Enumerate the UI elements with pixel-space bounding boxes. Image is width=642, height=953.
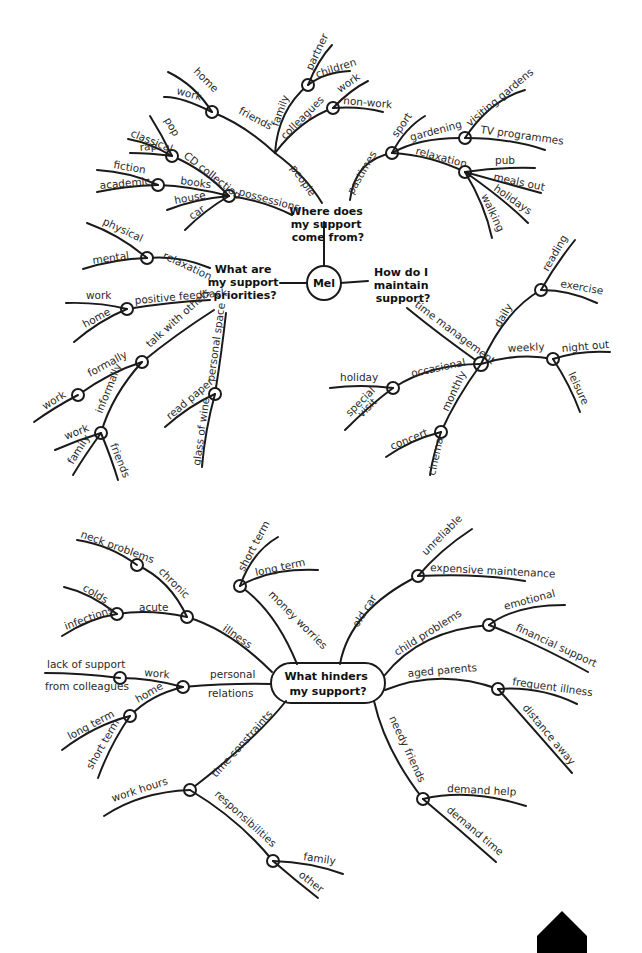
label-lack: lack of support xyxy=(47,658,125,670)
label-p-work: work xyxy=(144,666,171,680)
label-rap: rap xyxy=(139,139,158,153)
mind-map-canvas: Mel Where does my support come from? Wha… xyxy=(0,0,642,953)
branch-line xyxy=(340,281,368,283)
label-exercise: exercise xyxy=(560,277,605,296)
label-pastimes: pastimes xyxy=(344,149,378,196)
label-demand-time: demand time xyxy=(445,803,506,857)
label-visiting: visiting gardens xyxy=(464,66,536,129)
label-concert: concert xyxy=(388,426,429,452)
label-wine: glass of wine xyxy=(190,397,211,466)
question-maintain: How do I maintain support? xyxy=(374,266,433,305)
label-illness: illness xyxy=(221,622,255,651)
label-unreliable: unreliable xyxy=(419,512,464,557)
central-label: Mel xyxy=(313,277,335,290)
label-distance: distance away xyxy=(520,702,578,768)
label-personal: personal xyxy=(210,668,255,680)
label-acute: acute xyxy=(139,601,168,613)
label-fb-work: work xyxy=(86,289,112,301)
label-car: old car xyxy=(350,592,380,629)
label-time: time constraints xyxy=(209,708,275,780)
label-pub: pub xyxy=(495,154,515,166)
label-people: people xyxy=(288,162,318,198)
label-col-work: work xyxy=(334,70,362,95)
corner-diamond-icon xyxy=(537,911,587,953)
label-academic: academic xyxy=(99,175,151,191)
label-from-colleagues: from colleagues xyxy=(45,680,129,692)
label-resp: responsibilities xyxy=(213,788,279,849)
branch-emotional xyxy=(489,605,565,625)
label-car: car xyxy=(186,202,207,222)
label-other: other xyxy=(297,868,327,895)
branch-distance xyxy=(498,689,572,773)
branch-aged xyxy=(385,679,498,690)
label-cinema: cinema xyxy=(425,436,445,476)
label-house: house xyxy=(173,189,206,206)
label-aged: aged parents xyxy=(407,661,477,679)
label-holiday: holiday xyxy=(340,371,378,383)
label-infections: infections xyxy=(63,603,115,632)
branch-holiday xyxy=(330,386,393,388)
label-child: child problems xyxy=(392,607,464,658)
label-relaxation: relaxation xyxy=(414,144,468,169)
label-pop: pop xyxy=(162,115,182,138)
label-mental: mental xyxy=(92,249,130,266)
label-money: money worries xyxy=(267,588,330,651)
label-needy: needy friends xyxy=(387,714,428,784)
label-possessions: possessions xyxy=(237,185,301,213)
label-long-term: long term xyxy=(254,556,306,578)
branch-lack xyxy=(45,673,120,678)
question-where: Where does my support come from? xyxy=(289,205,366,244)
label-relations: relations xyxy=(208,687,253,699)
label-weekly: weekly xyxy=(507,340,544,354)
label-financial: financial support xyxy=(514,621,599,669)
branch-fb-work xyxy=(66,303,127,309)
mind-map-hinders: What hinders my support? illness chronic… xyxy=(45,512,599,898)
label-neck: neck problems xyxy=(79,528,156,566)
label-colds: colds xyxy=(81,581,111,605)
mind-map-support: Mel Where does my support come from? Wha… xyxy=(34,31,610,480)
